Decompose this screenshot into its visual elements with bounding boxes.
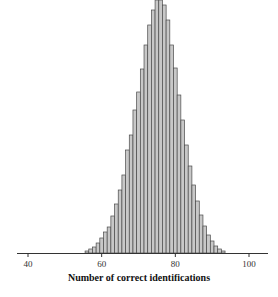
histogram-bar <box>96 243 100 253</box>
x-tick-label: 40 <box>24 259 34 269</box>
histogram-bar <box>115 204 119 253</box>
histogram-bars <box>85 0 225 253</box>
x-tick-label: 80 <box>171 259 181 269</box>
histogram-bar <box>177 95 181 253</box>
histogram-bar <box>203 226 207 253</box>
histogram-bar <box>207 235 211 253</box>
histogram-bar <box>188 166 192 253</box>
histogram-bar <box>170 45 174 253</box>
histogram-bar <box>192 185 196 253</box>
histogram-bar <box>140 69 144 253</box>
histogram-bar <box>196 201 200 253</box>
histogram-bar <box>85 251 89 253</box>
histogram-bar <box>151 10 155 253</box>
histogram-bar <box>137 92 141 253</box>
x-tick-label: 60 <box>97 259 107 269</box>
histogram-bar <box>221 251 225 253</box>
histogram-bar <box>218 249 222 253</box>
histogram-bar <box>133 110 137 253</box>
histogram-bar <box>185 145 189 253</box>
histogram-bar <box>111 216 115 253</box>
x-tick-label: 100 <box>242 259 256 269</box>
histogram-bar <box>92 247 96 253</box>
histogram-bar <box>159 0 163 253</box>
histogram-bar <box>181 120 185 253</box>
histogram-bar <box>126 150 130 253</box>
histogram-bar <box>210 241 214 253</box>
histogram-bar <box>155 0 159 253</box>
histogram-bar <box>214 246 218 253</box>
histogram-bar <box>122 175 126 253</box>
histogram-chart: 406080100 Number of correct identificati… <box>0 0 278 297</box>
histogram-bar <box>107 227 111 253</box>
histogram-bar <box>118 190 122 253</box>
histogram-bar <box>148 25 152 253</box>
histogram-bar <box>166 20 170 253</box>
histogram-bar <box>173 68 177 253</box>
histogram-bar <box>144 45 148 253</box>
histogram-bar <box>100 238 104 253</box>
x-axis-ticks: 406080100 <box>24 253 257 269</box>
histogram-bar <box>89 249 93 253</box>
histogram-bar <box>199 215 203 253</box>
histogram-bar <box>104 232 108 253</box>
histogram-bar <box>162 5 166 253</box>
histogram-bar <box>129 135 133 253</box>
x-axis-title: Number of correct identifications <box>68 272 210 283</box>
